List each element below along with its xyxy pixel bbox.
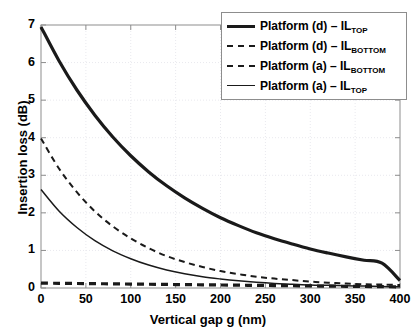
legend-label-platform-a-top: Platform (a) – ILTOP [260, 80, 367, 92]
legend-item[interactable]: Platform (d) – ILTOP [226, 16, 402, 36]
legend-label-platform-a-bottom: Platform (a) – ILBOTTOM [260, 60, 385, 72]
legend-item[interactable]: Platform (a) – ILTOP [226, 76, 402, 96]
legend-item[interactable]: Platform (d) – ILBOTTOM [226, 36, 402, 56]
x-axis-label: Vertical gap g (nm) [0, 312, 416, 327]
x-tick-label: 400 [380, 292, 416, 306]
legend-label-platform-d-bottom: Platform (d) – ILBOTTOM [260, 40, 386, 52]
x-tick-label: 300 [290, 292, 330, 306]
y-axis-label: Insertion loss (dB) [15, 58, 30, 258]
x-tick-label: 50 [66, 292, 106, 306]
x-tick-label: 0 [21, 292, 61, 306]
legend-swatch-platform-a-bottom [226, 59, 256, 73]
legend-swatch-platform-d-top [226, 19, 256, 33]
x-tick-label: 350 [335, 292, 375, 306]
legend-item[interactable]: Platform (a) – ILBOTTOM [226, 56, 402, 76]
legend-swatch-platform-d-bottom [226, 39, 256, 53]
legend-swatch-platform-a-top [226, 79, 256, 93]
legend-label-platform-d-top: Platform (d) – ILTOP [260, 20, 368, 32]
chart-figure: 05010015020025030035040001234567 Vertica… [0, 0, 416, 334]
y-tick-label: 7 [11, 17, 35, 31]
x-tick-label: 250 [245, 292, 285, 306]
x-tick-label: 100 [111, 292, 151, 306]
y-tick-label: 0 [11, 280, 35, 294]
x-tick-label: 150 [156, 292, 196, 306]
chart-legend: Platform (d) – ILTOP Platform (d) – ILBO… [221, 12, 407, 100]
x-tick-label: 200 [201, 292, 241, 306]
